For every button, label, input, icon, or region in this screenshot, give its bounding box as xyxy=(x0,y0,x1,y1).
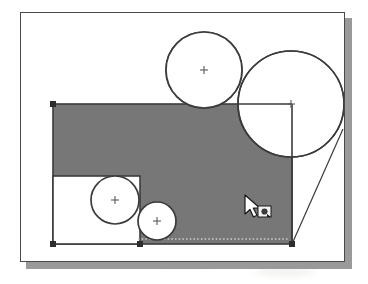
handle-bottom-right[interactable] xyxy=(289,241,295,247)
drawing-surface[interactable] xyxy=(21,13,345,262)
handle-bottom-mid[interactable] xyxy=(137,241,143,247)
handle-top-left[interactable] xyxy=(50,101,56,107)
paper-smudge xyxy=(255,268,315,276)
drawing-canvas-frame[interactable] xyxy=(20,12,345,262)
handle-bottom-left[interactable] xyxy=(50,241,56,247)
screenshot-root xyxy=(0,0,368,284)
